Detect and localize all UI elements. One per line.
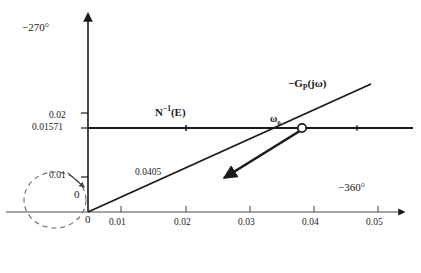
x-tick-label-0.04: 0.04 bbox=[302, 218, 319, 228]
y-axis-ticks bbox=[81, 113, 88, 177]
series-minus-gp-jomega bbox=[88, 84, 371, 212]
x-axis-ticks bbox=[88, 206, 378, 212]
x-tick-label-0.02: 0.02 bbox=[174, 218, 191, 228]
annotation-intersection-frequency: ω0 bbox=[270, 114, 281, 124]
series-label-minus-gp: −GP(jω) bbox=[288, 78, 326, 89]
series-label-n-inverse: N−1(E) bbox=[155, 107, 186, 118]
y-tick-label-0.01: 0.01 bbox=[49, 171, 66, 181]
nyquist-describing-function-figure: −270° −360° 0.02 0.01571 0.01 0.01 0.02 … bbox=[0, 0, 421, 273]
y-axis-label: −270° bbox=[22, 22, 49, 33]
plot-canvas bbox=[0, 0, 421, 273]
y-tick-label-0.01571: 0.01571 bbox=[32, 123, 63, 133]
x-tick-label-0.05: 0.05 bbox=[366, 218, 383, 228]
direction-arrow bbox=[224, 129, 303, 178]
intersection-point-marker bbox=[298, 124, 306, 132]
x-tick-label-0.03: 0.03 bbox=[238, 218, 255, 228]
annotation-slope-value: 0.0405 bbox=[135, 168, 161, 178]
origin-label-left: 0 bbox=[74, 189, 80, 200]
circle-direction-arrow bbox=[68, 173, 84, 187]
origin-label: 0 bbox=[85, 214, 91, 225]
y-tick-label-0.02: 0.02 bbox=[49, 111, 66, 121]
x-tick-label-0.01: 0.01 bbox=[109, 218, 126, 228]
x-axis-label: −360° bbox=[338, 182, 365, 193]
